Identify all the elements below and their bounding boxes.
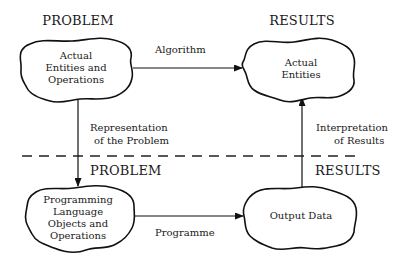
representation-label-line2: of the Problem xyxy=(94,135,170,146)
header-results-top: RESULTS xyxy=(269,13,335,28)
node-text-line: Actual xyxy=(59,50,92,61)
header-results-bottom: RESULTS xyxy=(315,163,381,178)
node-text-line: Operations xyxy=(50,230,106,241)
node-programming-objects: Programming Language Objects and Operati… xyxy=(25,186,134,252)
interpretation-label-line2: of Results xyxy=(334,135,384,146)
node-text-line: Actual xyxy=(284,57,317,68)
node-text-line: Objects and xyxy=(48,218,109,229)
node-actual-results: Actual Entities xyxy=(242,38,354,101)
header-problem-bottom: PROBLEM xyxy=(90,163,162,178)
node-text-line: Programming xyxy=(43,194,113,205)
node-text-line: Entities xyxy=(281,69,320,80)
header-problem-top: PROBLEM xyxy=(42,13,114,28)
node-text-line: Operations xyxy=(48,74,104,85)
programme-label: Programme xyxy=(155,227,215,238)
node-text-line: Language xyxy=(53,206,103,217)
representation-label-line1: Representation xyxy=(90,122,168,133)
problem-results-diagram: PROBLEM RESULTS PROBLEM RESULTS Algorith… xyxy=(0,0,398,269)
node-text-line: Entities and xyxy=(45,62,107,73)
node-actual-problem: Actual Entities and Operations xyxy=(20,38,132,102)
algorithm-label: Algorithm xyxy=(154,44,206,55)
node-output-data: Output Data xyxy=(244,187,357,250)
interpretation-label-line1: Interpretation xyxy=(316,122,388,133)
node-text-line: Output Data xyxy=(270,210,333,221)
